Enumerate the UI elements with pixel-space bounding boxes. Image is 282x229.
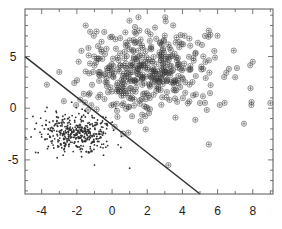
x-tick-label: 0 bbox=[109, 204, 116, 218]
circle-plus-marker bbox=[76, 59, 81, 64]
circle-plus-marker bbox=[137, 28, 142, 33]
dot-marker bbox=[70, 141, 72, 143]
dot-marker bbox=[92, 125, 94, 127]
dot-marker bbox=[81, 156, 83, 158]
dot-marker bbox=[64, 114, 66, 116]
dot-marker bbox=[102, 120, 104, 122]
circle-plus-marker bbox=[208, 83, 213, 88]
circle-plus-marker bbox=[173, 115, 178, 120]
dot-marker bbox=[93, 138, 95, 140]
dot-marker bbox=[52, 144, 54, 146]
circle-plus-marker bbox=[131, 103, 136, 108]
dot-marker bbox=[85, 140, 87, 142]
dot-marker bbox=[89, 137, 91, 139]
circle-plus-marker bbox=[151, 54, 156, 59]
dot-marker bbox=[85, 138, 87, 140]
circle-plus-marker bbox=[122, 56, 127, 61]
circle-plus-marker bbox=[105, 90, 110, 95]
dot-marker bbox=[74, 126, 76, 128]
circle-plus-marker bbox=[154, 62, 159, 67]
dot-marker bbox=[68, 145, 70, 147]
dot-marker bbox=[54, 138, 56, 140]
circle-plus-marker bbox=[136, 15, 141, 20]
dot-marker bbox=[68, 136, 70, 138]
dot-marker bbox=[102, 147, 104, 149]
dot-marker bbox=[51, 131, 53, 133]
dot-marker bbox=[51, 142, 53, 144]
dot-marker bbox=[67, 122, 69, 124]
dot-marker bbox=[71, 101, 73, 103]
circle-plus-marker bbox=[81, 91, 86, 96]
dot-marker bbox=[57, 141, 59, 143]
dot-marker bbox=[74, 134, 76, 136]
dot-marker bbox=[73, 131, 75, 133]
dot-marker bbox=[30, 136, 32, 138]
dot-marker bbox=[67, 133, 69, 135]
dot-marker bbox=[62, 119, 64, 121]
circle-plus-marker bbox=[159, 102, 164, 107]
dot-marker bbox=[74, 119, 76, 121]
circle-plus-marker bbox=[202, 33, 207, 38]
circle-plus-marker bbox=[94, 29, 99, 34]
dot-marker bbox=[78, 113, 80, 115]
dot-marker bbox=[67, 118, 69, 120]
dot-marker bbox=[72, 151, 74, 153]
dot-marker bbox=[79, 148, 81, 150]
dot-marker bbox=[100, 129, 102, 131]
dot-marker bbox=[68, 116, 70, 118]
dot-marker bbox=[91, 115, 93, 117]
x-axis-tick-labels: -4-202468 bbox=[36, 204, 256, 218]
dot-marker bbox=[56, 112, 58, 114]
dot-marker bbox=[60, 121, 62, 123]
dot-marker bbox=[93, 133, 95, 135]
circle-plus-marker bbox=[215, 33, 220, 38]
x-tick-label: 2 bbox=[144, 204, 151, 218]
dot-marker bbox=[81, 135, 83, 137]
dot-marker bbox=[70, 133, 72, 135]
class-positive-points bbox=[44, 15, 273, 168]
dot-marker bbox=[65, 132, 67, 134]
dot-marker bbox=[32, 116, 34, 118]
dot-marker bbox=[87, 126, 89, 128]
circle-plus-marker bbox=[74, 78, 79, 83]
circle-plus-marker bbox=[164, 89, 169, 94]
dot-marker bbox=[87, 122, 89, 124]
circle-plus-marker bbox=[241, 121, 246, 126]
circle-plus-marker bbox=[147, 38, 152, 43]
dot-marker bbox=[68, 138, 70, 140]
dot-marker bbox=[111, 121, 113, 123]
dot-marker bbox=[35, 152, 37, 154]
circle-plus-marker bbox=[123, 30, 128, 35]
circle-plus-marker bbox=[57, 69, 62, 74]
circle-plus-marker bbox=[104, 46, 109, 51]
circle-plus-marker bbox=[79, 48, 84, 53]
dot-marker bbox=[47, 146, 49, 148]
circle-plus-marker bbox=[193, 117, 198, 122]
dot-marker bbox=[93, 135, 95, 137]
circle-plus-marker bbox=[154, 36, 159, 41]
circle-plus-marker bbox=[138, 118, 143, 123]
circle-plus-marker bbox=[72, 80, 77, 85]
dot-marker bbox=[90, 142, 92, 144]
circle-plus-marker bbox=[226, 66, 231, 71]
circle-plus-marker bbox=[133, 85, 138, 90]
dot-marker bbox=[77, 125, 79, 127]
dot-marker bbox=[56, 125, 58, 127]
dot-marker bbox=[56, 130, 58, 132]
circle-plus-marker bbox=[118, 36, 123, 41]
dot-marker bbox=[83, 114, 85, 116]
dot-marker bbox=[46, 107, 48, 109]
circle-plus-marker bbox=[180, 96, 185, 101]
circle-plus-marker bbox=[200, 94, 205, 99]
y-tick-label: 5 bbox=[10, 50, 17, 64]
dot-marker bbox=[96, 138, 98, 140]
dot-marker bbox=[84, 127, 86, 129]
dot-marker bbox=[97, 141, 99, 143]
dot-marker bbox=[102, 134, 104, 136]
circle-plus-marker bbox=[231, 48, 236, 53]
dot-marker bbox=[93, 149, 95, 151]
circle-plus-marker bbox=[212, 48, 217, 53]
dot-marker bbox=[88, 129, 90, 131]
dot-marker bbox=[75, 107, 77, 109]
dot-marker bbox=[56, 134, 58, 136]
